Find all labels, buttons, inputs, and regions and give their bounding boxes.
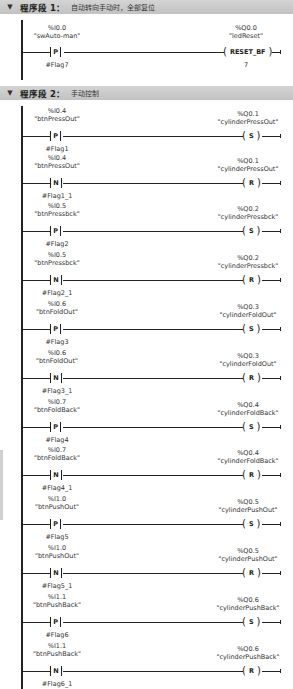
contact-address: %I0.7	[48, 398, 66, 406]
output-coil[interactable]: (R)	[242, 568, 261, 578]
coil-tag[interactable]: "cylinderPushBack"	[216, 604, 279, 612]
edge-flag[interactable]: #Flag5	[45, 533, 68, 541]
coil-tag[interactable]: "cylinderPressOut"	[218, 165, 279, 173]
edge-flag[interactable]: #Flag5_1	[42, 582, 73, 590]
rung-end	[280, 376, 281, 380]
coil-tag[interactable]: "cylinderFoldOut"	[219, 311, 276, 319]
network-comment[interactable]: 自动转向手动时，全部复位	[71, 2, 155, 12]
coil-tag[interactable]: "cylinderPressbck"	[218, 262, 279, 270]
coil-address: %Q0.1	[237, 157, 259, 165]
coil-paren-right: )	[257, 324, 261, 334]
output-coil[interactable]: (R)	[242, 470, 261, 480]
rung[interactable]: %I0.4"btnPressOut"P#Flag1%Q0.1"cylinderP…	[0, 104, 293, 152]
contact-tag[interactable]: "btnPushBack"	[33, 650, 81, 658]
output-coil[interactable]: (S)	[242, 519, 261, 529]
coil-type: RESET_BF	[227, 48, 269, 56]
coil-tag[interactable]: "cylinderPushOut"	[218, 506, 277, 514]
edge-contact[interactable]: N	[50, 178, 62, 188]
collapse-triangle-icon[interactable]: ▼	[0, 3, 20, 11]
edge-flag[interactable]: #Flag3	[45, 338, 68, 346]
output-coil[interactable]: (R)	[242, 275, 261, 285]
coil-address: %Q0.4	[237, 401, 259, 409]
rung[interactable]: %I0.7"btnFoldBack"N#Flag4_1%Q0.4"cylinde…	[0, 443, 293, 491]
rung[interactable]: %I1.0"btnPushOut"P#Flag5%Q0.5"cylinderPu…	[0, 492, 293, 540]
output-coil[interactable]: (S)	[242, 422, 261, 432]
rung[interactable]: %I0.6"btnFoldOut"N#Flag3_1%Q0.3"cylinder…	[0, 346, 293, 394]
output-coil[interactable]: (R)	[242, 373, 261, 383]
contact-address: %I0.7	[48, 446, 66, 454]
edge-contact[interactable]: P	[50, 226, 61, 236]
edge-flag[interactable]: #Flag2	[45, 240, 68, 248]
coil-type: R	[246, 374, 257, 382]
contact-tag[interactable]: "btnFoldOut"	[36, 357, 78, 365]
collapse-triangle-icon[interactable]: ▼	[0, 89, 20, 97]
coil-type: S	[246, 423, 257, 431]
rung[interactable]: %I1.0"btnPushOut"N#Flag5_1%Q0.5"cylinder…	[0, 541, 293, 589]
contact-address: %I1.1	[48, 642, 66, 650]
contact-type: N	[51, 276, 60, 284]
output-coil[interactable]: (R)	[242, 666, 261, 676]
wire	[63, 280, 243, 281]
rung[interactable]: %I0.5"btnPressbck"P#Flag2%Q0.2"cylinderP…	[0, 199, 293, 247]
contact-tag[interactable]: "btnPressOut"	[34, 162, 80, 170]
contact-tag[interactable]: "btnPressbck"	[34, 210, 79, 218]
output-coil[interactable]: (S)	[242, 617, 261, 627]
rung[interactable]: %I0.4"btnPressOut"N#Flag1_1%Q0.1"cylinde…	[0, 151, 293, 199]
edge-contact[interactable]: N	[50, 275, 62, 285]
contact-tag[interactable]: "btnFoldBack"	[34, 454, 80, 462]
rung-end	[280, 327, 281, 331]
edge-contact[interactable]: P	[50, 324, 61, 334]
contact-address: %I1.0	[48, 544, 66, 552]
contact-tag[interactable]: "swAuto-man"	[34, 32, 81, 40]
edge-flag[interactable]: #Flag6_1	[42, 680, 73, 688]
edge-contact[interactable]: P	[50, 131, 61, 141]
contact-tag[interactable]: "btnPressOut"	[34, 115, 80, 123]
rung[interactable]: %I0.0 "swAuto-man" P #Flag7 %Q0.0 "ledRe…	[0, 22, 293, 70]
coil-type: S	[246, 520, 257, 528]
wire	[22, 136, 50, 137]
rung[interactable]: %I0.6"btnFoldOut"P#Flag3%Q0.3"cylinderFo…	[0, 297, 293, 345]
contact-tag[interactable]: "btnFoldBack"	[34, 406, 80, 414]
edge-contact[interactable]: N	[50, 373, 62, 383]
edge-flag[interactable]: #Flag4_1	[42, 484, 73, 492]
edge-contact[interactable]: P	[50, 617, 61, 627]
edge-flag[interactable]: #Flag7	[45, 61, 68, 69]
contact-tag[interactable]: "btnPressbck"	[34, 259, 79, 267]
contact-tag[interactable]: "btnPushBack"	[33, 601, 81, 609]
contact-tag[interactable]: "btnPushOut"	[35, 552, 79, 560]
coil-tag[interactable]: "cylinderFoldOut"	[219, 360, 276, 368]
coil-param[interactable]: 7	[244, 61, 248, 69]
network-1-header[interactable]: ▼ 程序段 1： 自动转向手动时，全部复位	[0, 0, 293, 14]
edge-contact[interactable]: P	[50, 422, 61, 432]
edge-contact[interactable]: N	[50, 470, 62, 480]
output-coil[interactable]: (S)	[242, 226, 261, 236]
contact-tag[interactable]: "btnPushOut"	[35, 503, 79, 511]
edge-contact[interactable]: N	[50, 568, 62, 578]
network-comment[interactable]: 手动控制	[71, 88, 99, 98]
rung[interactable]: %I1.1"btnPushBack"P#Flag6%Q0.6"cylinderP…	[0, 590, 293, 638]
coil-tag[interactable]: "cylinderPushBack"	[216, 653, 279, 661]
coil-tag[interactable]: "ledReset"	[229, 32, 263, 40]
coil-tag[interactable]: "cylinderPressOut"	[218, 118, 279, 126]
edge-flag[interactable]: #Flag2_1	[42, 289, 73, 297]
coil-tag[interactable]: "cylinderPushOut"	[218, 555, 277, 563]
edge-contact[interactable]: N	[50, 666, 62, 676]
coil-tag[interactable]: "cylinderPressbck"	[218, 213, 279, 221]
edge-contact[interactable]: P	[50, 519, 61, 529]
network-2-header[interactable]: ▼ 程序段 2： 手动控制	[0, 86, 293, 100]
edge-flag[interactable]: #Flag3_1	[42, 387, 73, 395]
output-coil[interactable]: (S)	[242, 324, 261, 334]
rung-end	[280, 620, 281, 624]
rung[interactable]: %I0.7"btnFoldBack"P#Flag4%Q0.4"cylinderF…	[0, 395, 293, 443]
rung[interactable]: %I1.1"btnPushBack"N#Flag6_1%Q0.6"cylinde…	[0, 639, 293, 687]
output-coil[interactable]: (S)	[242, 131, 261, 141]
p-contact[interactable]: P	[50, 47, 61, 57]
edge-flag[interactable]: #Flag6	[45, 631, 68, 639]
reset-bf-coil[interactable]: ( RESET_BF )	[223, 47, 272, 57]
contact-bar	[61, 470, 62, 480]
coil-tag[interactable]: "cylinderFoldBack"	[217, 409, 278, 417]
output-coil[interactable]: (R)	[242, 178, 261, 188]
rung[interactable]: %I0.5"btnPressbck"N#Flag2_1%Q0.2"cylinde…	[0, 248, 293, 296]
coil-tag[interactable]: "cylinderFoldBack"	[217, 457, 278, 465]
contact-tag[interactable]: "btnFoldOut"	[36, 308, 78, 316]
